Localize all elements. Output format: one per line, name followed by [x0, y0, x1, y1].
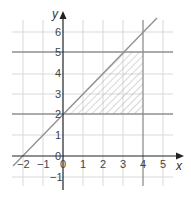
y-axis-label: y [51, 7, 59, 21]
svg-text:5: 5 [160, 158, 166, 170]
y-tick-labels: −1 0 1 2 3 4 5 6 [50, 26, 63, 183]
svg-text:−1: −1 [50, 171, 63, 183]
svg-text:2: 2 [55, 108, 61, 120]
svg-text:0: 0 [55, 150, 61, 162]
svg-text:−1: −1 [37, 158, 50, 170]
svg-text:5: 5 [55, 46, 61, 58]
svg-text:6: 6 [55, 26, 61, 38]
y-axis-arrow-icon [60, 11, 67, 19]
svg-text:1: 1 [55, 129, 61, 141]
svg-text:3: 3 [55, 88, 61, 100]
x-tick-labels: −2 −1 0 1 2 3 4 5 [17, 158, 166, 170]
svg-text:4: 4 [55, 67, 61, 79]
svg-text:4: 4 [140, 158, 146, 170]
graph: x y −2 −1 0 1 2 3 4 5 −1 0 1 2 3 4 5 6 [0, 0, 191, 199]
x-axis-label: x [175, 159, 183, 173]
svg-text:−2: −2 [17, 158, 30, 170]
svg-text:2: 2 [100, 158, 106, 170]
svg-text:1: 1 [80, 158, 86, 170]
svg-text:3: 3 [120, 158, 126, 170]
